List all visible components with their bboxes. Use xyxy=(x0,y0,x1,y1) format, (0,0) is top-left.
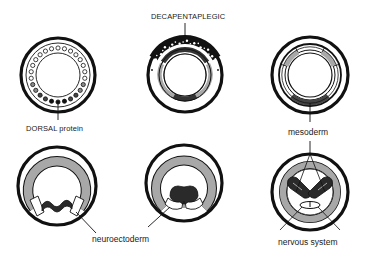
pointer-line xyxy=(76,212,96,233)
label-nervous-system: nervous system xyxy=(278,237,338,247)
label-decapentaplegic: DECAPENTAPLEGIC xyxy=(151,12,226,21)
panel-ventral-furrow: neuroectoderm xyxy=(92,145,222,244)
dorsal-nuclei-dots xyxy=(29,46,87,104)
panel-neuroectoderm xyxy=(18,147,96,233)
label-neuroectoderm: neuroectoderm xyxy=(92,234,149,244)
panel-dorsal-protein: DORSAL protein xyxy=(21,38,95,133)
panel-nervous-system: nervous system xyxy=(272,141,348,247)
panel-decapentaplegic: DECAPENTAPLEGIC xyxy=(148,12,226,112)
label-mesoderm: mesoderm xyxy=(288,127,328,137)
neuroectoderm-layer xyxy=(42,200,72,212)
diagram-canvas: DORSAL protein DECAPENTAPLEGIC xyxy=(0,0,365,258)
label-dorsal-protein: DORSAL protein xyxy=(26,124,83,133)
panel-mesoderm-top: mesoderm xyxy=(272,37,348,137)
